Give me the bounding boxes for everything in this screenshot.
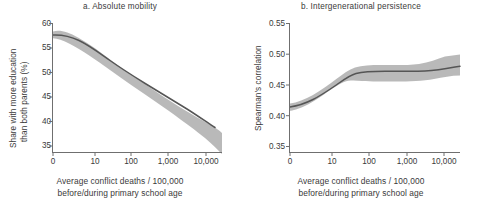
panel-a-xlabel-line2: before/during primary school age <box>0 188 240 198</box>
panel-b-confidence-band <box>290 55 460 111</box>
panel-b-xlabel-line1: Average conflict deaths / 100,000 <box>241 176 481 186</box>
panel-b-xtick-marks <box>290 153 444 157</box>
panel-a-xlabel-line1: Average conflict deaths / 100,000 <box>0 176 240 186</box>
panel-a-confidence-band <box>53 31 222 154</box>
panel-intergenerational-persistence: b. Intergenerational persistence Spearma… <box>241 0 481 208</box>
panel-a-xtick-marks <box>53 153 206 157</box>
panel-b-xlabel-line2: before/during primary school age <box>241 188 481 198</box>
figure-two-panel-chart: a. Absolute mobility Share with more edu… <box>0 0 481 208</box>
panel-b-ytick-marks <box>286 24 290 147</box>
panel-a-ytick-marks <box>49 24 53 147</box>
panel-absolute-mobility: a. Absolute mobility Share with more edu… <box>0 0 240 208</box>
